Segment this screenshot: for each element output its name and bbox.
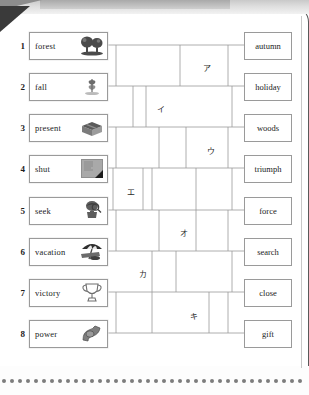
left-item-fall[interactable]: 2fall [13,73,108,101]
rule-dot [250,379,254,383]
corner-triangle-icon [0,6,30,32]
item-number: 3 [13,123,25,133]
rule-dot [154,379,158,383]
rule-dot [202,379,206,383]
rule-dot [242,379,246,383]
left-word-box[interactable]: vacation [29,238,108,266]
page-top-fold [40,0,230,9]
rule-dot [58,379,62,383]
maze-label-3: ウ [207,145,215,156]
rule-dot [130,379,134,383]
rule-dot [194,379,198,383]
right-word-box-woods[interactable]: woods [244,114,292,142]
right-word-box-triumph[interactable]: triumph [244,155,292,183]
trees-icon [78,34,105,57]
rule-dot [10,379,14,383]
item-number: 4 [13,164,25,174]
rule-dot [186,379,190,383]
maze-label-4: エ [127,186,135,197]
left-word-box[interactable]: shut [29,155,108,183]
left-item-seek[interactable]: 5seek [13,197,108,225]
left-word-label: seek [30,206,51,216]
item-number: 8 [13,329,25,339]
rule-dot [66,379,70,383]
flexed-arm-icon [78,322,105,345]
maze-label-5: オ [180,227,188,238]
rule-dot [82,379,86,383]
rule-dot [26,379,30,383]
closed-book-icon [78,157,105,180]
rule-dot [138,379,142,383]
rule-dot [210,379,214,383]
right-word-box-holiday[interactable]: holiday [244,73,292,101]
item-number: 6 [13,247,25,257]
left-item-power[interactable]: 8power [13,320,108,348]
left-word-box[interactable]: present [29,114,108,142]
rule-dot [218,379,222,383]
beach-umbrella-icon [78,240,105,263]
right-word-box-gift[interactable]: gift [244,320,292,348]
rule-dot [106,379,110,383]
left-word-label: fall [30,82,47,92]
rule-dot [282,379,286,383]
left-item-present[interactable]: 3present [13,114,108,142]
left-item-forest[interactable]: 1forest [13,32,108,60]
item-number: 1 [13,41,25,51]
maze-label-6: カ [139,268,147,279]
rule-dot [114,379,118,383]
searching-person-icon [78,199,105,222]
maze-label-7: キ [190,310,198,321]
rule-dot [18,379,22,383]
rule-dot [74,379,78,383]
item-number: 7 [13,288,25,298]
left-word-box[interactable]: power [29,320,108,348]
rule-dot [122,379,126,383]
rule-dot [146,379,150,383]
rule-dot [178,379,182,383]
left-word-label: shut [30,164,50,174]
rule-dot [162,379,166,383]
right-word-box-autumn[interactable]: autumn [244,32,292,60]
right-word-box-search[interactable]: search [244,238,292,266]
right-word-box-force[interactable]: force [244,197,292,225]
item-number: 5 [13,206,25,216]
rule-dot [258,379,262,383]
rule-dot [2,379,6,383]
rule-dot [98,379,102,383]
gift-box-icon [78,116,105,139]
left-word-box[interactable]: fall [29,73,108,101]
rule-dot [42,379,46,383]
left-word-label: vacation [30,247,65,257]
left-item-shut[interactable]: 4shut [13,155,108,183]
left-word-box[interactable]: victory [29,279,108,307]
maze-label-2: イ [157,103,165,114]
falling-leaf-icon [78,75,105,98]
maze-label-1: ア [203,62,211,73]
rule-dot [298,379,302,383]
left-word-box[interactable]: seek [29,197,108,225]
left-word-label: victory [30,288,60,298]
left-word-label: power [30,329,57,339]
item-number: 2 [13,82,25,92]
left-word-label: present [30,123,61,133]
rule-dot [226,379,230,383]
bottom-dotted-rule [2,379,302,383]
rule-dot [34,379,38,383]
rule-dot [266,379,270,383]
rule-dot [50,379,54,383]
left-word-label: forest [30,41,56,51]
rule-dot [234,379,238,383]
trophy-icon [78,281,105,304]
worksheet-sheet [0,6,309,366]
rule-dot [290,379,294,383]
right-word-box-close[interactable]: close [244,279,292,307]
left-word-box[interactable]: forest [29,32,108,60]
rule-dot [170,379,174,383]
left-item-victory[interactable]: 7victory [13,279,108,307]
page-right-edge [301,16,302,368]
rule-dot [90,379,94,383]
left-item-vacation[interactable]: 6vacation [13,238,108,266]
rule-dot [274,379,278,383]
